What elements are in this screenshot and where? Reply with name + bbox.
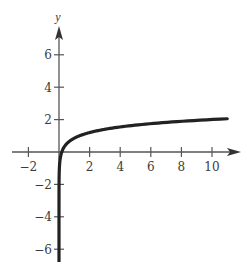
y-axis-label: y (54, 10, 61, 24)
data-curve (59, 119, 227, 262)
x-tick-label: 4 (116, 160, 124, 174)
x-tick-label: 8 (178, 160, 186, 174)
y-tick-label: −4 (34, 210, 52, 224)
y-tick-label: −2 (34, 178, 52, 192)
chart-canvas: y−2246810642−2−4−6 (0, 0, 244, 262)
x-tick-label: 2 (86, 160, 94, 174)
x-tick-label: 6 (147, 160, 155, 174)
x-tick-label: −2 (20, 160, 38, 174)
y-tick-label: 6 (44, 48, 52, 62)
x-tick-label: 10 (204, 160, 219, 174)
y-tick-label: 4 (44, 81, 52, 95)
y-tick-label: −6 (34, 243, 52, 257)
y-tick-label: 2 (44, 113, 52, 127)
